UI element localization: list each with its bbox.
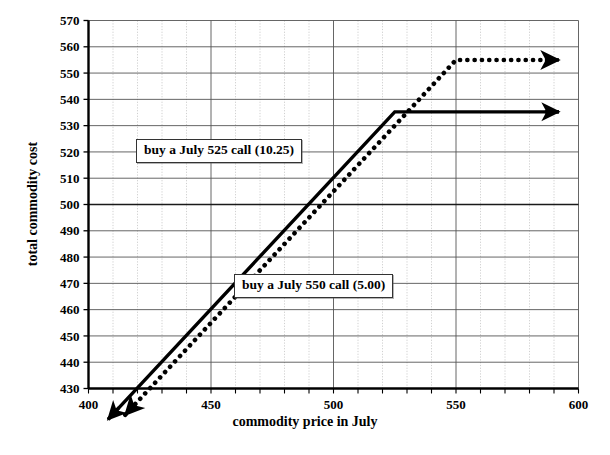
y-tick-label: 500 <box>60 197 80 212</box>
y-tick-label: 430 <box>60 381 80 396</box>
y-tick-label: 560 <box>60 39 80 54</box>
y-tick-label: 460 <box>60 302 80 317</box>
y-tick-label: 530 <box>60 118 80 133</box>
payoff-chart-plot: 4304404504604704804905005105205305405505… <box>0 0 610 455</box>
grid-major <box>89 21 579 389</box>
y-tick-label: 490 <box>60 223 80 238</box>
y-tick-label: 440 <box>60 355 80 370</box>
axis-ticks <box>84 21 579 394</box>
x-axis-title: commodity price in July <box>0 414 610 430</box>
y-tick-label: 540 <box>60 92 80 107</box>
annotation-buy-july-525-call: buy a July 525 call (10.25) <box>136 139 302 163</box>
y-tick-label: 480 <box>60 250 80 265</box>
y-tick-label: 510 <box>60 171 80 186</box>
y-tick-label: 520 <box>60 145 80 160</box>
y-tick-label: 570 <box>60 13 80 28</box>
x-tick-label: 500 <box>324 397 344 412</box>
chart-figure: 4304404504604704804905005105205305405505… <box>0 0 610 455</box>
y-axis-title: total commodity cost <box>25 109 41 299</box>
y-tick-label: 550 <box>60 66 80 81</box>
x-tick-label: 600 <box>569 397 589 412</box>
x-tick-label: 450 <box>201 397 221 412</box>
y-tick-label: 450 <box>60 329 80 344</box>
annotation-buy-july-550-call: buy a July 550 call (5.00) <box>234 274 393 298</box>
x-tick-label: 550 <box>446 397 466 412</box>
x-tick-label: 400 <box>79 397 99 412</box>
y-tick-label: 470 <box>60 276 80 291</box>
